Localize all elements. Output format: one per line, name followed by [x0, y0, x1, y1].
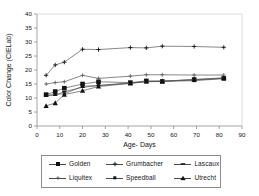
axes-group	[34, 14, 242, 129]
chart-legend: Golden Grumbacher	[41, 155, 221, 188]
legend-item-lascaux: Lascaux	[174, 158, 220, 170]
legend-item-utrecht: Utrecht	[174, 172, 220, 184]
data-point	[96, 47, 100, 51]
data-point	[54, 93, 57, 96]
x-tick-label: 50	[147, 131, 154, 138]
x-tick-label: 40	[125, 131, 132, 138]
data-point	[62, 86, 67, 91]
legend-row-2: Liquitex Speedball Utrec	[42, 172, 220, 184]
data-point	[44, 82, 48, 86]
data-point	[192, 73, 196, 77]
series-line	[46, 78, 224, 94]
x-tick-label: 70	[193, 131, 200, 138]
legend-label-lascaux: Lascaux	[194, 161, 219, 168]
filled-square-icon	[49, 160, 66, 169]
legend-item-grumbacher: Grumbacher	[106, 158, 174, 170]
legend-label-grumbacher: Grumbacher	[126, 161, 163, 168]
open-plus-icon	[49, 174, 66, 183]
small-square-icon	[106, 174, 123, 183]
chart-figure: 05101520253035400102030405060708090Age- …	[0, 0, 259, 196]
data-point	[81, 85, 84, 88]
x-tick-label: 90	[239, 131, 246, 138]
data-point	[128, 74, 132, 78]
y-tick-label: 0	[29, 122, 33, 129]
series-speedball	[45, 77, 226, 97]
x-axis-label: Age- Days	[123, 141, 156, 149]
legend-item-speedball: Speedball	[106, 172, 174, 184]
plus-icon	[106, 160, 123, 169]
x-tick-label: 30	[102, 131, 109, 138]
data-point	[144, 73, 148, 77]
legend-label-liquitex: Liquitex	[69, 175, 92, 182]
legend-label-utrecht: Utrecht	[194, 175, 216, 182]
y-tick-label: 40	[25, 10, 32, 17]
data-point	[222, 45, 226, 49]
y-tick-label: 25	[25, 52, 32, 59]
filled-triangle-icon	[174, 174, 191, 183]
legend-row-1: Golden Grumbacher	[42, 158, 220, 170]
y-tick-label: 30	[25, 38, 32, 45]
data-point	[160, 73, 164, 77]
x-tick-label: 60	[170, 131, 177, 138]
y-tick-label: 5	[29, 108, 33, 115]
data-point	[160, 44, 164, 48]
y-axis-label: Color Change (CIELab)	[5, 33, 13, 106]
y-tick-label: 15	[25, 80, 32, 87]
x-tick-label: 20	[79, 131, 86, 138]
x-tick-label: 10	[56, 131, 63, 138]
data-point	[128, 46, 132, 50]
legend-label-golden: Golden	[69, 161, 91, 168]
series-line	[46, 46, 224, 75]
data-point	[144, 46, 148, 50]
series-grumbacher	[44, 44, 226, 77]
small-dash-icon	[174, 160, 191, 169]
data-point	[62, 80, 66, 84]
data-point	[45, 94, 48, 97]
x-tick-label: 0	[35, 131, 39, 138]
data-point	[62, 60, 66, 64]
legend-item-golden: Golden	[49, 158, 106, 170]
axis-lines	[37, 14, 242, 126]
x-tick-label: 80	[216, 131, 223, 138]
data-point	[81, 73, 85, 77]
data-point	[192, 44, 196, 48]
y-tick-label: 20	[25, 66, 32, 73]
plot-border	[37, 14, 242, 126]
y-tick-label: 10	[25, 94, 32, 101]
data-point	[53, 81, 57, 85]
series-group	[44, 44, 227, 108]
legend-item-liquitex: Liquitex	[49, 172, 106, 184]
legend-label-speedball: Speedball	[126, 175, 156, 182]
y-tick-label: 35	[25, 24, 32, 31]
